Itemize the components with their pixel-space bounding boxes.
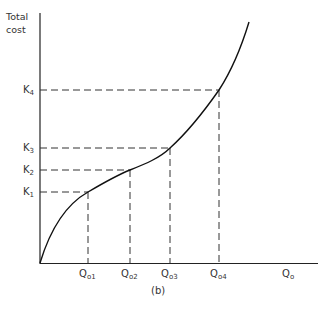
tick-q04: Qo4: [210, 268, 227, 283]
guide-lines: [40, 90, 219, 263]
y-axis-label: Total cost: [6, 10, 40, 36]
chart-canvas: [0, 0, 332, 309]
tick-k1: K1: [23, 186, 34, 201]
tick-k2: K2: [23, 164, 34, 179]
x-axis-label: Qo: [282, 268, 294, 283]
tick-q03: Qo3: [161, 268, 178, 283]
total-cost-curve: [40, 22, 249, 263]
y-axis-label-line1: Total: [6, 10, 40, 23]
panel-label: (b): [151, 285, 165, 296]
y-axis-label-line2: cost: [6, 23, 40, 36]
tick-k4: K4: [23, 84, 34, 99]
tick-q01: Qo1: [79, 268, 96, 283]
tick-q02: Qo2: [121, 268, 138, 283]
tick-k3: K3: [23, 142, 34, 157]
